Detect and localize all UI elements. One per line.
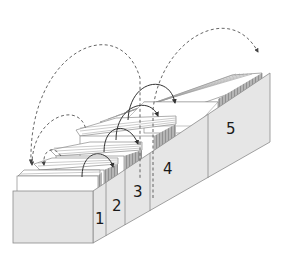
compartment-label-1: 1 <box>95 210 105 228</box>
compartment-label-3: 3 <box>133 183 143 201</box>
box-front-face <box>13 191 93 243</box>
card-stack-1 <box>17 170 102 192</box>
compartment-label-4: 4 <box>163 160 173 178</box>
leitner-box-diagram: 1 2 3 4 5 <box>0 0 281 257</box>
compartment-label-2: 2 <box>112 197 122 215</box>
compartment-label-5: 5 <box>226 120 236 138</box>
